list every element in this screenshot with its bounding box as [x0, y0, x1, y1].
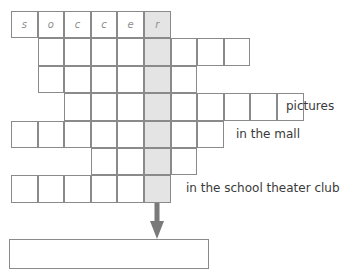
- cell-letter-input[interactable]: [92, 12, 117, 37]
- cell-letter-input[interactable]: [92, 67, 117, 92]
- grid-cell[interactable]: [171, 121, 198, 148]
- cell-letter-input[interactable]: [145, 39, 170, 64]
- grid-cell[interactable]: [64, 11, 91, 38]
- grid-cell[interactable]: [11, 121, 38, 148]
- cell-letter-input[interactable]: [145, 149, 170, 174]
- cell-letter-input[interactable]: [12, 176, 37, 201]
- clue-pictures: pictures: [286, 100, 334, 112]
- grid-cell[interactable]: [224, 38, 251, 65]
- grid-cell[interactable]: [171, 38, 198, 65]
- grid-cell[interactable]: [38, 66, 65, 93]
- cell-letter-input[interactable]: [12, 12, 37, 37]
- grid-cell[interactable]: [197, 38, 224, 65]
- cell-letter-input[interactable]: [118, 122, 143, 147]
- cell-letter-input[interactable]: [172, 67, 197, 92]
- grid-cell[interactable]: [91, 66, 118, 93]
- cell-letter-input[interactable]: [39, 12, 64, 37]
- grid-cell[interactable]: [117, 93, 144, 120]
- shaded-grid-cell[interactable]: [144, 175, 171, 202]
- grid-cell[interactable]: [91, 148, 118, 175]
- cell-letter-input[interactable]: [145, 94, 170, 119]
- grid-cell[interactable]: [171, 148, 198, 175]
- grid-cell[interactable]: [91, 38, 118, 65]
- grid-cell[interactable]: [197, 93, 224, 120]
- clue-in-the-school-theater-club: in the school theater club: [186, 182, 340, 194]
- cell-letter-input[interactable]: [12, 122, 37, 147]
- cell-letter-input[interactable]: [172, 149, 197, 174]
- cell-letter-input[interactable]: [172, 122, 197, 147]
- cell-letter-input[interactable]: [39, 39, 64, 64]
- cell-letter-input[interactable]: [225, 94, 250, 119]
- answer-input[interactable]: [10, 240, 212, 270]
- cell-letter-input[interactable]: [39, 122, 64, 147]
- down-arrow-icon: [150, 203, 164, 239]
- shaded-grid-cell[interactable]: [144, 93, 171, 120]
- cell-letter-input[interactable]: [39, 67, 64, 92]
- shaded-grid-cell[interactable]: [144, 66, 171, 93]
- shaded-grid-cell[interactable]: [144, 11, 171, 38]
- grid-cell[interactable]: [117, 175, 144, 202]
- grid-cell[interactable]: [64, 38, 91, 65]
- shaded-grid-cell[interactable]: [144, 121, 171, 148]
- grid-cell[interactable]: [171, 93, 198, 120]
- cell-letter-input[interactable]: [145, 176, 170, 201]
- grid-cell[interactable]: [91, 121, 118, 148]
- cell-letter-input[interactable]: [251, 94, 276, 119]
- cell-letter-input[interactable]: [65, 39, 90, 64]
- grid-cell[interactable]: [38, 11, 65, 38]
- grid-cell[interactable]: [64, 93, 91, 120]
- cell-letter-input[interactable]: [198, 122, 223, 147]
- grid-cell[interactable]: [224, 93, 251, 120]
- cell-letter-input[interactable]: [172, 94, 197, 119]
- cell-letter-input[interactable]: [92, 122, 117, 147]
- cell-letter-input[interactable]: [92, 39, 117, 64]
- grid-cell[interactable]: [117, 11, 144, 38]
- cell-letter-input[interactable]: [92, 176, 117, 201]
- grid-cell[interactable]: [64, 66, 91, 93]
- grid-cell[interactable]: [38, 38, 65, 65]
- grid-cell[interactable]: [197, 121, 224, 148]
- clue-in-the-mall: in the mall: [236, 128, 300, 140]
- grid-cell[interactable]: [11, 11, 38, 38]
- grid-cell[interactable]: [64, 175, 91, 202]
- cell-letter-input[interactable]: [65, 176, 90, 201]
- cell-letter-input[interactable]: [92, 94, 117, 119]
- cell-letter-input[interactable]: [92, 149, 117, 174]
- grid-cell[interactable]: [250, 93, 277, 120]
- shaded-grid-cell[interactable]: [144, 38, 171, 65]
- cell-letter-input[interactable]: [118, 149, 143, 174]
- cell-letter-input[interactable]: [65, 122, 90, 147]
- cell-letter-input[interactable]: [118, 94, 143, 119]
- cell-letter-input[interactable]: [225, 39, 250, 64]
- grid-cell[interactable]: [117, 121, 144, 148]
- shaded-grid-cell[interactable]: [144, 148, 171, 175]
- grid-cell[interactable]: [91, 93, 118, 120]
- cell-letter-input[interactable]: [198, 39, 223, 64]
- cell-letter-input[interactable]: [145, 67, 170, 92]
- grid-cell[interactable]: [38, 175, 65, 202]
- cell-letter-input[interactable]: [65, 12, 90, 37]
- cell-letter-input[interactable]: [39, 176, 64, 201]
- grid-cell[interactable]: [171, 66, 198, 93]
- grid-cell[interactable]: [64, 121, 91, 148]
- grid-cell[interactable]: [117, 148, 144, 175]
- grid-cell[interactable]: [117, 38, 144, 65]
- grid-cell[interactable]: [91, 11, 118, 38]
- answer-box[interactable]: [9, 239, 209, 269]
- cell-letter-input[interactable]: [145, 122, 170, 147]
- grid-cell[interactable]: [91, 175, 118, 202]
- cell-letter-input[interactable]: [118, 39, 143, 64]
- cell-letter-input[interactable]: [118, 67, 143, 92]
- cell-letter-input[interactable]: [65, 94, 90, 119]
- cell-letter-input[interactable]: [118, 176, 143, 201]
- cell-letter-input[interactable]: [198, 94, 223, 119]
- grid-cell[interactable]: [38, 121, 65, 148]
- cell-letter-input[interactable]: [118, 12, 143, 37]
- grid-cell[interactable]: [11, 175, 38, 202]
- grid-cell[interactable]: [117, 66, 144, 93]
- cell-letter-input[interactable]: [65, 67, 90, 92]
- cell-letter-input[interactable]: [145, 12, 170, 37]
- cell-letter-input[interactable]: [172, 39, 197, 64]
